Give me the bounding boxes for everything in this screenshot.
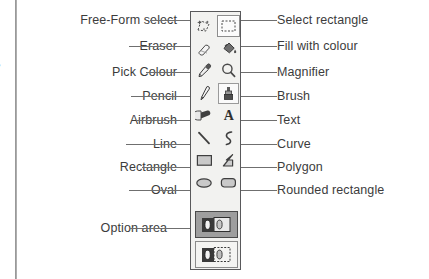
tool-fill-with-colour[interactable]: [217, 37, 242, 59]
tool-brush-frame[interactable]: [218, 83, 239, 104]
leader-rectangle: [142, 167, 190, 168]
option-area: [195, 211, 238, 268]
option-opaque-selection[interactable]: [195, 211, 238, 238]
tool-text: A: [217, 105, 242, 127]
paint-toolbox: A: [190, 11, 241, 270]
label-rounded-rectangle: Rounded rectangle: [277, 184, 384, 197]
leader-pencil: [131, 96, 190, 97]
tool-pencil[interactable]: [192, 82, 217, 104]
text-icon[interactable]: A: [224, 109, 234, 123]
page-margin-rule: [15, 0, 17, 279]
tool-select-rectangle[interactable]: [217, 15, 242, 37]
tool-oval[interactable]: [192, 172, 217, 194]
leader-polygon: [237, 167, 277, 168]
leader-brush: [238, 96, 277, 97]
tool-free-form-select[interactable]: [192, 15, 217, 37]
leader-rounded-rectangle: [237, 190, 277, 191]
tool-rectangle[interactable]: [192, 149, 217, 171]
tool-select-rectangle-frame[interactable]: [217, 15, 240, 37]
leader-oval: [129, 190, 190, 191]
option-transparent-selection[interactable]: [195, 241, 238, 268]
leader-option-area: [130, 228, 190, 229]
tool-grid: A: [192, 15, 241, 194]
leader-eraser: [129, 46, 190, 47]
label-brush: Brush: [277, 90, 310, 103]
tool-line[interactable]: [192, 127, 217, 149]
leader-free-form-select: [150, 20, 190, 21]
tool-curve[interactable]: [217, 127, 242, 149]
margin-edge-glyph: •: [0, 58, 6, 74]
tool-rounded-rectangle[interactable]: [217, 172, 242, 194]
leader-pick-colour: [146, 72, 190, 73]
label-magnifier: Magnifier: [277, 66, 329, 79]
tool-brush[interactable]: [217, 82, 242, 104]
leader-line: [126, 144, 190, 145]
tool-airbrush[interactable]: [192, 105, 217, 127]
tool-eraser[interactable]: [192, 37, 217, 59]
leader-text: [236, 120, 277, 121]
leader-airbrush: [136, 120, 190, 121]
diagram-page: • Free-Form select Eraser Pick Colour Pe…: [0, 0, 429, 279]
label-curve: Curve: [277, 138, 311, 151]
label-polygon: Polygon: [277, 161, 323, 174]
label-fill-with-colour: Fill with colour: [277, 40, 358, 53]
label-text: Text: [277, 114, 300, 127]
tool-polygon[interactable]: [217, 149, 242, 171]
label-select-rectangle: Select rectangle: [277, 14, 368, 27]
tool-magnifier[interactable]: [217, 60, 242, 82]
tool-pick-colour[interactable]: [192, 60, 217, 82]
leader-select-rectangle: [241, 20, 277, 21]
